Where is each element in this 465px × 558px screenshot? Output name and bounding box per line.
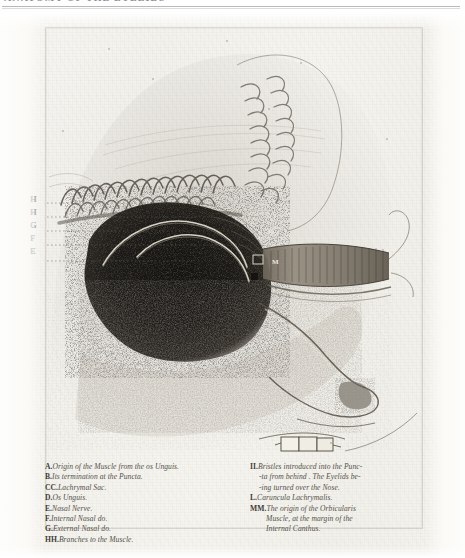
anatomical-illustration: [45, 27, 421, 459]
paper-speck: [108, 48, 110, 50]
engraving-plate: H H G F E K M A.Origin of the Muscle fro…: [0, 12, 465, 558]
caption-line: G.External Nasal do.: [45, 524, 230, 534]
caption-key: MM.: [250, 504, 266, 513]
running-header-text: ANATOMY OF THE EYELIDS: [0, 0, 465, 3]
caption-text: Os Unguis.: [52, 493, 87, 502]
caption-column-right: II.Bristles introduced into the Punc- -t…: [250, 462, 450, 535]
running-header: ANATOMY OF THE EYELIDS: [0, 0, 465, 4]
caption-line: D.Os Unguis.: [45, 493, 230, 503]
caption-text: Nasal Nerve.: [52, 504, 92, 513]
caption-line: F.Internal Nasal do.: [45, 514, 230, 524]
figure-label-k: K: [268, 228, 274, 236]
caption-column-left: A.Origin of the Muscle from the os Ungui…: [45, 462, 230, 545]
paper-speck: [330, 442, 332, 444]
caption-line: L.Caruncula Lachrymalis.: [250, 493, 450, 503]
caption-line: -ing turned over the Nose.: [250, 483, 450, 493]
paper-speck: [300, 62, 302, 64]
caption-text: -ing turned over the Nose.: [259, 483, 340, 492]
caption-key: G.: [45, 524, 53, 533]
page-margin-bottom: [0, 546, 465, 558]
caption-line: Muscle, at the margin of the: [250, 514, 450, 524]
caption-line: E.Nasal Nerve.: [45, 504, 230, 514]
caption-text: Muscle, at the margin of the: [266, 514, 353, 523]
caption-text: Origin of the Muscle from the os Unguis.: [52, 462, 179, 471]
page-margin-left: [0, 12, 46, 558]
header-rule: [2, 6, 460, 7]
caption-text: Internal Canthus.: [266, 524, 320, 533]
paper-speck: [386, 138, 388, 140]
paper-speck: [226, 40, 228, 42]
caption-key: II.: [250, 462, 258, 471]
caption-text: Internal Nasal do.: [51, 514, 107, 523]
caption-line: II.Bristles introduced into the Punc-: [250, 462, 450, 472]
caption-line: A.Origin of the Muscle from the os Ungui…: [45, 462, 230, 472]
caption-text: Its termination at the Puncta.: [52, 472, 143, 481]
caption-text: Caruncula Lachrymalis.: [257, 493, 332, 502]
caption-text: -ta from behind . The Eyelids be-: [259, 472, 361, 481]
caption-line: B.Its termination at the Puncta.: [45, 472, 230, 482]
plate-caption: A.Origin of the Muscle from the os Ungui…: [45, 462, 445, 558]
caption-line: -ta from behind . The Eyelids be-: [250, 472, 450, 482]
caption-text: Lachrymal Sac.: [58, 483, 106, 492]
paper-speck: [62, 130, 64, 132]
header-rule-secondary: [2, 8, 460, 9]
caption-line: HH.Branches to the Muscle.: [45, 535, 230, 545]
paper-speck: [152, 78, 154, 80]
caption-text: Branches to the Muscle.: [59, 535, 134, 544]
page-margin-top: [0, 12, 465, 30]
caption-key: CC.: [45, 483, 58, 492]
paper-speck: [268, 108, 270, 110]
caption-text: Bristles introduced into the Punc-: [258, 462, 362, 471]
caption-key: HH.: [45, 535, 59, 544]
caption-line: CC.Lachrymal Sac.: [45, 483, 230, 493]
page-margin-right: [425, 12, 465, 558]
caption-line: Internal Canthus.: [250, 524, 450, 534]
caption-text: External Nasal do.: [53, 524, 111, 533]
caption-line: MM.The origin of the Orbicularis: [250, 504, 450, 514]
figure-label-m: M: [272, 258, 279, 266]
page: ANATOMY OF THE EYELIDS: [0, 0, 465, 558]
caption-text: The origin of the Orbicularis: [266, 504, 356, 513]
